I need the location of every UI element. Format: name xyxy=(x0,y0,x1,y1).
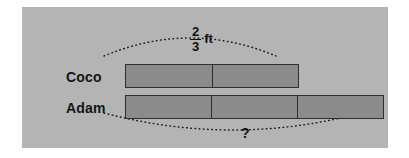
tape-segment xyxy=(213,65,299,87)
tape-bar-coco xyxy=(125,64,299,88)
tape-segment xyxy=(126,65,213,87)
bottom-measure-label: ? xyxy=(241,126,250,140)
tape-bar-adam xyxy=(125,95,384,119)
diagram-panel: Coco Adam 2 3 ft ? xyxy=(22,7,388,148)
row-label-adam: Adam xyxy=(66,100,106,116)
measure-unit: ft xyxy=(204,32,213,46)
fraction-denominator: 3 xyxy=(190,40,201,53)
tape-diagram-screenshot: Coco Adam 2 3 ft ? xyxy=(0,0,409,158)
fraction-two-thirds: 2 3 xyxy=(190,25,201,53)
tape-segment xyxy=(212,96,298,118)
tape-segment xyxy=(298,96,383,118)
fraction-numerator: 2 xyxy=(190,25,201,38)
row-label-coco: Coco xyxy=(66,69,102,85)
top-measure-label: 2 3 ft xyxy=(190,25,213,53)
tape-segment xyxy=(126,96,212,118)
